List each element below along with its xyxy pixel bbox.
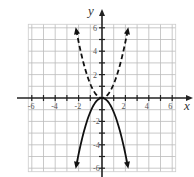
coordinate-plane: -6-4-2246642-2-4-6 x y [0, 0, 194, 177]
y-tick-label: -2 [93, 117, 100, 126]
curve-arrow-icon [74, 161, 80, 168]
x-tick-label: 6 [168, 102, 172, 111]
x-tick-label: 4 [145, 102, 149, 111]
x-tick-label: -4 [51, 102, 58, 111]
y-axis-arrow-icon [99, 9, 105, 16]
y-tick-label: -4 [93, 141, 100, 150]
y-tick-label: 6 [93, 24, 97, 33]
x-tick-label: -6 [28, 102, 35, 111]
x-tick-label: 2 [121, 102, 125, 111]
y-tick-label: 4 [93, 47, 97, 56]
y-tick-label: 2 [93, 71, 97, 80]
curve-arrow-icon [74, 27, 80, 34]
curve-arrow-icon [124, 27, 130, 34]
x-tick-label: -2 [75, 102, 82, 111]
x-axis-label: x [183, 98, 190, 113]
curve-arrow-icon [124, 161, 130, 168]
y-tick-label: -6 [93, 164, 100, 173]
y-axis-label: y [86, 3, 94, 18]
